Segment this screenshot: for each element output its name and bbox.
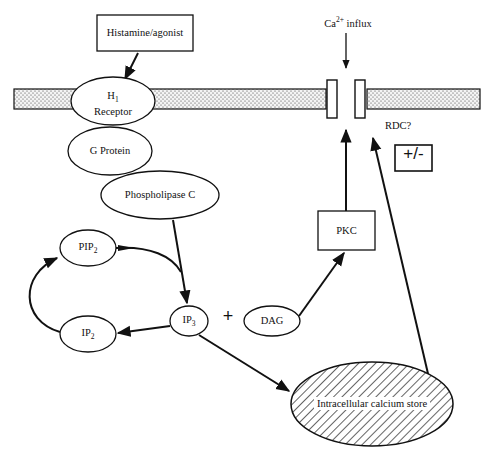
pip2-main: PIP (79, 241, 94, 252)
calcium-channel (327, 80, 365, 118)
pip2-to-ip3-arrow (116, 248, 181, 272)
store-to-channel-arrow (373, 138, 429, 378)
agonist-label: Histamine/agonist (97, 27, 193, 39)
ip3-main: IP (182, 314, 191, 325)
ca-sup: 2+ (336, 15, 344, 24)
ip3-label: IP3 (172, 314, 206, 330)
pkc-label: PKC (318, 225, 375, 237)
phospholipase-c-label: Phospholipase C (105, 189, 215, 201)
arrowhead-icon (118, 245, 134, 251)
ip3-to-ip2-arrow (118, 326, 170, 333)
ip3-to-store-arrow (199, 335, 289, 391)
rdc-label: RDC? (378, 120, 418, 132)
ip2-to-pip2-arrow (30, 258, 60, 332)
ip3-sub: 3 (192, 319, 196, 328)
h1-label-main: H (107, 90, 115, 101)
modulation-label: +/- (395, 148, 432, 160)
h1-receptor-label: H1 Receptor (78, 90, 148, 118)
ca-influx-label: Ca2+ influx (316, 14, 380, 30)
ip2-sub: 2 (91, 332, 95, 341)
plc-to-ip3-arrow (173, 220, 187, 303)
receptor-label: Receptor (94, 106, 132, 117)
ip2-main: IP (81, 327, 90, 338)
pip2-label: PIP2 (68, 241, 108, 257)
dag-label: DAG (252, 315, 292, 327)
plus-sign: + (218, 310, 238, 322)
h1-label-sub: 1 (115, 95, 119, 104)
calcium-store-label: Intracellular calcium store (314, 397, 430, 410)
ca-main: Ca (324, 18, 336, 29)
ip2-label: IP2 (68, 327, 108, 343)
pip2-sub: 2 (94, 246, 98, 255)
agonist-to-receptor-arrow (125, 53, 138, 79)
dag-to-pkc-arrow (299, 253, 344, 316)
calcium-store-label-wrap: Intracellular calcium store (302, 398, 442, 410)
g-protein-label: G Protein (75, 145, 145, 157)
ca-rest: influx (344, 18, 372, 29)
